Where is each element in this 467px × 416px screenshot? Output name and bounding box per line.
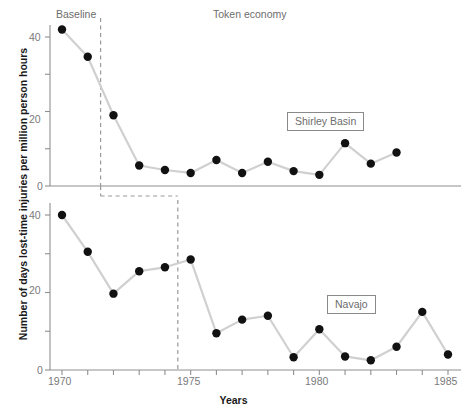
data-point	[212, 329, 220, 337]
data-point	[238, 315, 246, 323]
series-line	[62, 215, 448, 360]
data-point	[341, 352, 349, 360]
chart-plot-area	[0, 0, 467, 416]
data-point	[186, 169, 194, 177]
data-point	[341, 139, 349, 147]
data-point	[161, 263, 169, 271]
data-point	[418, 308, 426, 316]
data-point	[315, 171, 323, 179]
data-point	[58, 25, 66, 33]
data-point	[264, 158, 272, 166]
data-point	[58, 211, 66, 219]
ytick-top-0: 0	[37, 180, 43, 192]
data-point	[367, 159, 375, 167]
xtick-1970: 1970	[48, 375, 71, 387]
series-line	[62, 30, 397, 175]
data-point	[238, 169, 246, 177]
data-point	[84, 53, 92, 61]
data-point	[289, 167, 297, 175]
data-point	[109, 111, 117, 119]
xtick-1975: 1975	[177, 375, 200, 387]
panel-shirley-basin	[45, 18, 461, 186]
data-point	[367, 356, 375, 364]
shirley-basin-series-label: Shirley Basin	[287, 112, 364, 131]
data-point	[161, 166, 169, 174]
navajo-series-label: Navajo	[327, 295, 376, 314]
data-point	[186, 255, 194, 263]
data-point	[444, 350, 452, 358]
data-point	[109, 289, 117, 297]
ytick-top-20: 20	[29, 113, 41, 125]
data-point	[392, 343, 400, 351]
ytick-top-40: 40	[29, 31, 41, 43]
data-point	[212, 156, 220, 164]
token-economy-phase-label: Token economy	[213, 8, 287, 20]
data-point	[135, 161, 143, 169]
data-point	[135, 267, 143, 275]
xtick-1985: 1985	[434, 375, 457, 387]
ytick-bottom-40: 40	[29, 209, 41, 221]
data-point	[392, 148, 400, 156]
panel-navajo	[45, 200, 461, 375]
ytick-bottom-20: 20	[29, 284, 41, 296]
xtick-1980: 1980	[305, 375, 328, 387]
y-axis-title: Number of days lost-time injuries per mi…	[17, 29, 29, 359]
data-point	[289, 353, 297, 361]
x-axis-title: Years	[0, 394, 467, 406]
data-point	[84, 248, 92, 256]
baseline-phase-label: Baseline	[56, 8, 96, 20]
ytick-bottom-0: 0	[37, 364, 43, 376]
data-point	[264, 312, 272, 320]
data-point	[315, 325, 323, 333]
chart-figure: Number of days lost-time injuries per mi…	[0, 0, 467, 416]
